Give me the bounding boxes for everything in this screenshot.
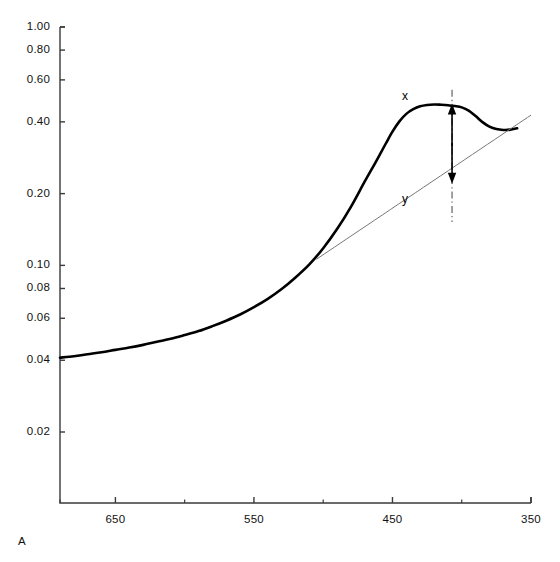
plot-canvas <box>0 0 560 562</box>
y-axis-tick-label: 0.10 <box>4 258 50 270</box>
baseline-height-label: y <box>402 192 408 206</box>
x-axis-tick-label: 550 <box>224 513 284 525</box>
y-axis-tick-label: 0.20 <box>4 187 50 199</box>
x-axis-tick-label: 450 <box>362 513 422 525</box>
y-axis-tick-label: 0.80 <box>4 43 50 55</box>
measurement-arrows <box>448 104 456 184</box>
absorbance-spectrum-figure: 1.000.800.600.400.200.100.080.060.040.02… <box>0 0 560 562</box>
x-axis-tick-label: 650 <box>85 513 145 525</box>
y-axis-tick-label: 0.02 <box>4 425 50 437</box>
y-axis-tick-label: 0.04 <box>4 353 50 365</box>
axis-corner-label: A <box>18 535 26 547</box>
peak-height-label: x <box>402 89 408 103</box>
y-axis-tick-label: 0.40 <box>4 115 50 127</box>
axes <box>60 27 531 503</box>
y-axis-tick-label: 0.06 <box>4 311 50 323</box>
y-axis-tick-label: 1.00 <box>4 20 50 32</box>
x-axis-tick-label: 350 <box>501 513 560 525</box>
y-axis-tick-label: 0.60 <box>4 73 50 85</box>
y-axis-tick-label: 0.08 <box>4 281 50 293</box>
data-series <box>60 90 531 358</box>
